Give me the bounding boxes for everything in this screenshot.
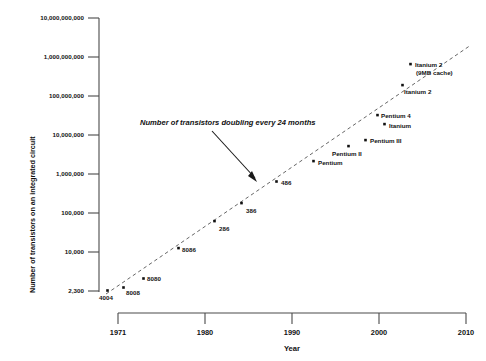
point-label-itanium-2-9mb-cache: (9MB cache) xyxy=(416,69,453,76)
marker-pentium-4 xyxy=(376,114,379,117)
marker-pentium-ii xyxy=(347,145,350,148)
point-label-486: 486 xyxy=(281,179,291,186)
point-label-itanium: Itanium xyxy=(389,122,411,129)
trend-annotation-text: Number of transistors doubling every 24 … xyxy=(140,118,316,127)
marker-itanium-2 xyxy=(401,84,404,87)
marker-8086 xyxy=(177,247,180,250)
point-label-8080: 8080 xyxy=(147,275,161,282)
marker-486 xyxy=(275,180,278,183)
marker-8080 xyxy=(142,277,145,280)
marker-4004 xyxy=(106,289,109,292)
y-tick-label-10k: 10,000 xyxy=(4,248,84,255)
x-axis-title: Year xyxy=(272,344,312,353)
point-label-286: 286 xyxy=(219,225,229,232)
point-label-8086: 8086 xyxy=(182,246,196,253)
x-tick-label-1971: 1971 xyxy=(98,328,138,337)
point-label-itanium-2: Itanium 2 xyxy=(404,88,431,95)
annotation-arrow xyxy=(212,131,257,182)
x-tick-label-1990: 1990 xyxy=(272,328,312,337)
x-tick-label-2010: 2010 xyxy=(446,328,486,337)
point-label-pentium-4: Pentium 4 xyxy=(381,112,411,119)
marker-itanium xyxy=(383,123,386,126)
y-axis-ticks xyxy=(88,18,99,291)
point-label-itanium-2-9mb: Itanium 2 xyxy=(415,61,442,68)
y-tick-label-10m: 10,000,000 xyxy=(4,131,84,138)
point-label-pentium-ii: Pentium II xyxy=(332,150,362,157)
y-tick-label-10b: 10,000,000,000 xyxy=(4,14,84,21)
trendline xyxy=(106,45,471,294)
marker-pentium-iii xyxy=(364,139,367,142)
data-point-markers xyxy=(106,63,412,292)
point-label-pentium: Pentium xyxy=(318,159,343,166)
marker-8008 xyxy=(122,286,125,289)
marker-386 xyxy=(240,202,243,205)
y-tick-label-100k: 100,000 xyxy=(4,209,84,216)
marker-itanium-2-9mb xyxy=(409,63,412,66)
y-tick-label-100m: 100,000,000 xyxy=(4,92,84,99)
x-tick-label-2000: 2000 xyxy=(359,328,399,337)
marker-pentium xyxy=(312,160,315,163)
x-axis-ticks xyxy=(118,313,466,324)
marker-286 xyxy=(213,220,216,223)
y-axis-title: Number of transistors on an integrated c… xyxy=(28,136,37,293)
y-tick-label-2300: 2,300 xyxy=(4,287,84,294)
moore-law-chart-figure: 10,000,000,000 1,000,000,000 100,000,000… xyxy=(0,0,486,361)
point-label-386: 386 xyxy=(246,207,256,214)
point-label-pentium-iii: Pentium III xyxy=(370,137,402,144)
y-tick-label-1b: 1,000,000,000 xyxy=(4,53,84,60)
point-label-8008: 8008 xyxy=(126,289,140,296)
x-tick-label-1980: 1980 xyxy=(185,328,225,337)
y-tick-label-1m: 1,000,000 xyxy=(4,170,84,177)
point-label-4004: 4004 xyxy=(99,294,113,301)
